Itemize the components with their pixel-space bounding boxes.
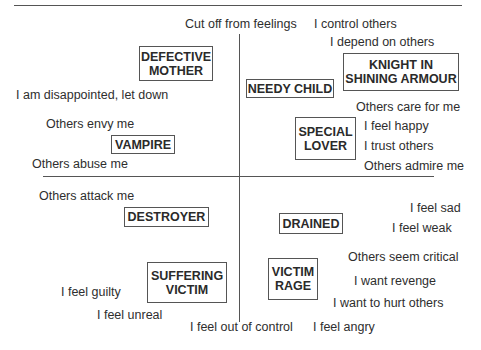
- box-line: SHINING ARMOUR: [345, 72, 456, 86]
- box-suffering-victim: SUFFERINGVICTIM: [147, 262, 227, 303]
- box-vampire: VAMPIRE: [111, 135, 175, 154]
- box-line: VICTIM: [151, 283, 223, 297]
- label-others-critical: Others seem critical: [348, 250, 458, 264]
- label-cut-off: Cut off from feelings: [185, 17, 297, 31]
- label-feel-sad: I feel sad: [410, 201, 461, 215]
- label-feel-guilty: I feel guilty: [61, 285, 121, 299]
- label-feel-angry: I feel angry: [313, 320, 375, 334]
- label-disappointed: I am disappointed, let down: [16, 88, 168, 102]
- box-line: MOTHER: [141, 64, 211, 78]
- label-feel-weak: I feel weak: [392, 221, 452, 235]
- label-trust-others: I trust others: [364, 139, 433, 153]
- label-depend-on-others: I depend on others: [330, 35, 434, 49]
- label-others-attack: Others attack me: [39, 189, 134, 203]
- box-defective-mother: DEFECTIVEMOTHER: [139, 46, 213, 81]
- box-line: SPECIAL: [298, 125, 352, 139]
- horizontal-axis: [43, 176, 434, 177]
- top-rule: [14, 5, 462, 6]
- box-line: VICTIM: [272, 265, 314, 279]
- box-line: DESTROYER: [128, 210, 206, 224]
- box-destroyer: DESTROYER: [124, 207, 209, 227]
- label-others-care: Others care for me: [356, 100, 460, 114]
- box-line: NEEDY CHILD: [248, 82, 333, 96]
- label-feel-unreal: I feel unreal: [97, 308, 162, 322]
- box-drained: DRAINED: [279, 213, 343, 234]
- box-line: SUFFERING: [151, 269, 223, 283]
- box-line: DRAINED: [283, 217, 340, 231]
- box-line: KNIGHT IN: [345, 58, 456, 72]
- box-line: RAGE: [272, 279, 314, 293]
- box-line: LOVER: [298, 139, 352, 153]
- label-hurt-others: I want to hurt others: [333, 296, 443, 310]
- label-control-others: I control others: [314, 17, 397, 31]
- label-others-admire: Others admire me: [364, 159, 464, 173]
- box-victim-rage: VICTIMRAGE: [268, 258, 318, 300]
- label-others-abuse: Others abuse me: [32, 157, 128, 171]
- label-feel-happy: I feel happy: [364, 119, 429, 133]
- box-needy-child: NEEDY CHILD: [246, 79, 334, 98]
- box-line: DEFECTIVE: [141, 50, 211, 64]
- label-out-of-control: I feel out of control: [190, 320, 293, 334]
- box-knight-in-shining-armour: KNIGHT INSHINING ARMOUR: [343, 53, 459, 91]
- label-others-envy: Others envy me: [46, 117, 134, 131]
- label-want-revenge: I want revenge: [354, 274, 436, 288]
- box-special-lover: SPECIALLOVER: [295, 117, 356, 160]
- vertical-axis: [239, 34, 240, 322]
- box-line: VAMPIRE: [115, 138, 171, 152]
